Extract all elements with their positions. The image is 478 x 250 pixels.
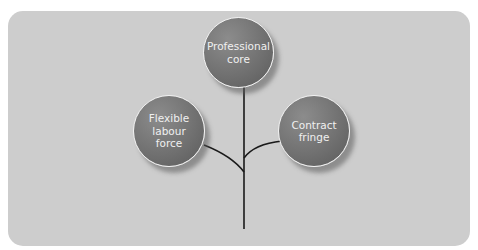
branch-right-line (244, 141, 282, 158)
node-contract-fringe: Contract fringe (278, 95, 350, 167)
node-label: Flexible labour force (149, 112, 189, 150)
node-label: Contract fringe (291, 119, 336, 144)
node-label: Professional core (207, 40, 270, 65)
node-professional-core: Professional core (203, 17, 274, 88)
node-flexible-labour-force: Flexible labour force (133, 95, 205, 167)
branch-left-line (204, 145, 244, 172)
